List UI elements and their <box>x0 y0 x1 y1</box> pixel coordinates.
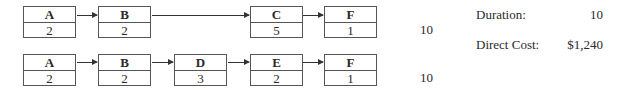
activity-duration: 1 <box>325 23 376 38</box>
direct-cost-value: $1,240 <box>567 37 603 53</box>
activity-node-d: D 3 <box>174 54 227 86</box>
activity-node-f: F 1 <box>324 54 377 86</box>
activity-node-e: E 2 <box>250 54 303 86</box>
path-total: 10 <box>420 70 433 86</box>
activity-duration: 2 <box>24 71 75 86</box>
activity-name: A <box>24 55 75 71</box>
path-total: 10 <box>420 22 433 38</box>
arrow-icon <box>228 62 249 63</box>
arrow-icon <box>303 62 323 63</box>
duration-label: Duration: <box>476 7 526 23</box>
activity-duration: 2 <box>251 71 302 86</box>
activity-node-a: A 2 <box>23 54 76 86</box>
arrow-icon <box>152 62 173 63</box>
activity-name: F <box>325 7 376 23</box>
arrow-icon <box>77 15 97 16</box>
activity-duration: 5 <box>251 23 302 38</box>
arrow-icon <box>303 15 323 16</box>
activity-node-b: B 2 <box>98 6 151 38</box>
activity-name: B <box>99 7 150 23</box>
arrow-icon <box>77 62 97 63</box>
activity-duration: 1 <box>325 71 376 86</box>
activity-node-b: B 2 <box>98 54 151 86</box>
activity-name: F <box>325 55 376 71</box>
direct-cost-label: Direct Cost: <box>476 37 539 53</box>
activity-name: E <box>251 55 302 71</box>
duration-value: 10 <box>590 7 603 23</box>
activity-node-c: C 5 <box>250 6 303 38</box>
activity-name: C <box>251 7 302 23</box>
activity-node-a: A 2 <box>23 6 76 38</box>
activity-duration: 2 <box>99 71 150 86</box>
arrow-icon <box>152 15 249 16</box>
activity-duration: 2 <box>99 23 150 38</box>
activity-name: B <box>99 55 150 71</box>
activity-duration: 2 <box>24 23 75 38</box>
activity-name: A <box>24 7 75 23</box>
activity-duration: 3 <box>175 71 226 86</box>
activity-node-f: F 1 <box>324 6 377 38</box>
activity-name: D <box>175 55 226 71</box>
